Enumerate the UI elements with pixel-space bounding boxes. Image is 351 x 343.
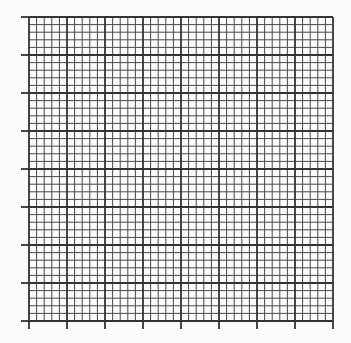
grid-plot [0, 0, 351, 343]
